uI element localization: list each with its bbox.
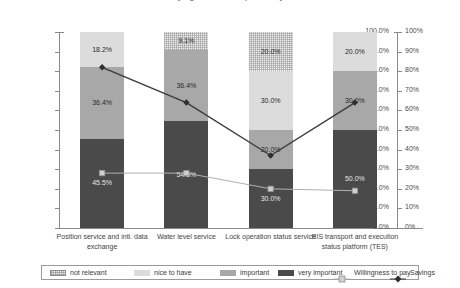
- legend-label: Savings: [410, 269, 435, 276]
- legend-swatch-nicetohave: [134, 270, 150, 276]
- legend-label: important: [240, 269, 269, 276]
- y-label-right-10: 10%: [405, 203, 419, 210]
- y-label-right-80: 80%: [405, 66, 419, 73]
- line-series-overlay: [60, 32, 397, 228]
- legend-swatch-veryimportant: [278, 270, 294, 276]
- y-label-right-70: 70%: [405, 86, 419, 93]
- y-label-right-30: 30%: [405, 164, 419, 171]
- y-tick-left-50: [55, 130, 59, 131]
- line-marker-square: [268, 186, 273, 191]
- y-tick-left-40: [55, 150, 59, 151]
- line-marker-square: [184, 171, 189, 176]
- legend-marker-square-icon: [334, 269, 350, 277]
- y-tick-left-20: [55, 189, 59, 190]
- y-tick-left-100: [55, 32, 59, 33]
- chart-container: [Logistics service providers] 0.0%10.0%2…: [0, 0, 460, 288]
- legend-item[interactable]: not relevant: [50, 269, 107, 276]
- y-label-right-20: 20%: [405, 184, 419, 191]
- chart-legend: not relevantnice to haveimportantvery im…: [41, 265, 419, 280]
- legend-swatch-important: [220, 270, 236, 276]
- line-savings: [99, 64, 358, 159]
- line-marker-diamond: [352, 99, 358, 105]
- chart-title: [Logistics service providers]: [0, 0, 460, 1]
- legend-item[interactable]: nice to have: [134, 269, 192, 276]
- legend-item[interactable]: very important: [278, 269, 342, 276]
- plot-area: 0.0%10.0%20.0%30.0%40.0%50.0%60.0%70.0%8…: [60, 32, 397, 228]
- y-tick-right-70: [398, 91, 402, 92]
- line-path: [102, 67, 355, 155]
- y-tick-right-30: [398, 169, 402, 170]
- legend-swatch-notrelevant: [50, 270, 66, 276]
- y-tick-right-60: [398, 110, 402, 111]
- y-tick-right-10: [398, 208, 402, 209]
- line-willingness-to-pay: [100, 171, 358, 194]
- y-label-right-60: 60%: [405, 105, 419, 112]
- chart-title-line: [Logistics service providers]: [0, 0, 460, 1]
- y-tick-right-40: [398, 150, 402, 151]
- x-axis-extension-right: [397, 228, 423, 229]
- y-label-right-90: 90%: [405, 47, 419, 54]
- y-label-right-50: 50%: [405, 125, 419, 132]
- line-marker-diamond: [267, 152, 273, 158]
- x-category-label: RIS transport and execution status platf…: [303, 232, 407, 251]
- y-tick-right-20: [398, 189, 402, 190]
- y-label-right-100: 100%: [405, 27, 423, 34]
- line-path: [102, 173, 355, 191]
- y-tick-left-60: [55, 110, 59, 111]
- y-tick-right-80: [398, 71, 402, 72]
- y-tick-left-30: [55, 169, 59, 170]
- legend-label: not relevant: [70, 269, 107, 276]
- y-tick-left-10: [55, 208, 59, 209]
- x-axis-line: [59, 228, 398, 229]
- y-tick-left-0: [55, 228, 59, 229]
- line-marker-diamond: [99, 64, 105, 70]
- y-label-right-40: 40%: [405, 145, 419, 152]
- line-marker-square: [100, 171, 105, 176]
- legend-item[interactable]: Savings: [390, 269, 435, 277]
- line-marker-square: [352, 188, 357, 193]
- legend-marker-diamond-icon: [390, 269, 406, 277]
- legend-item[interactable]: important: [220, 269, 269, 276]
- y-tick-right-90: [398, 52, 402, 53]
- y-tick-right-100: [398, 32, 402, 33]
- y-tick-right-50: [398, 130, 402, 131]
- legend-label: nice to have: [154, 269, 192, 276]
- y-tick-left-80: [55, 71, 59, 72]
- y-tick-left-90: [55, 52, 59, 53]
- y-tick-left-70: [55, 91, 59, 92]
- line-marker-diamond: [183, 99, 189, 105]
